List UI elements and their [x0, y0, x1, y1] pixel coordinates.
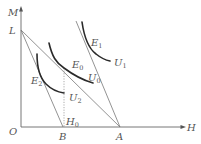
e0-label: E0 — [71, 59, 83, 72]
point-L-label: L — [8, 25, 16, 36]
y-axis-arrow-icon — [19, 6, 23, 12]
indifference-curve-U0 — [49, 43, 93, 83]
point-B-label: B — [58, 131, 66, 142]
u1-label: U1 — [114, 57, 127, 70]
e1-label: E1 — [90, 37, 102, 50]
x-axis-label: H — [186, 122, 196, 133]
u2-label: U2 — [69, 92, 82, 105]
economics-diagram: M H O L B A H0 E1 U1 E0 U0 E2 U2 — [0, 0, 201, 144]
u0-label: U0 — [88, 72, 101, 85]
y-axis-label: M — [7, 7, 19, 18]
axes — [19, 6, 186, 129]
origin-label: O — [9, 126, 17, 137]
x-axis-arrow-icon — [181, 125, 187, 129]
point-A-label: A — [115, 131, 123, 142]
